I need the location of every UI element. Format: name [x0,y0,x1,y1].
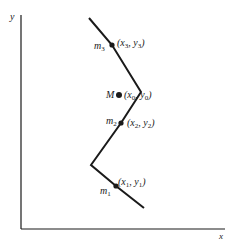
mass-point-m2 [118,120,123,125]
center-of-mass-point [116,92,122,98]
coord-label-center: (x0, y0) [124,90,152,102]
coord-label-m2: (x2, y2) [127,118,155,130]
mass-point-m3 [109,42,114,47]
mass-label-m1: m1 [100,186,111,198]
coord-label-m1: (x1, y1) [118,177,146,189]
y-axis-label: y [10,12,14,22]
center-of-mass-label: M [106,90,114,100]
mass-label-m2: m2 [106,116,117,128]
center-of-mass-diagram: y x m3 (x3, y3) M (x0, y0) m2 (x2, y2) m… [0,0,238,248]
x-axis-label: x [219,232,223,241]
coord-label-m3: (x3, y3) [117,38,145,50]
mass-label-m3: m3 [94,41,105,53]
